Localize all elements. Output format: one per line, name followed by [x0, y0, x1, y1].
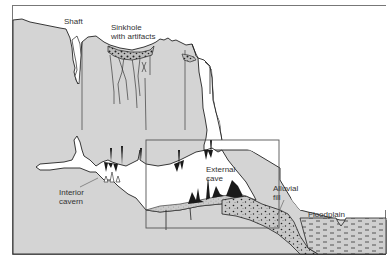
- label-sinkhole: Sinkhole with artifacts: [111, 23, 155, 41]
- karst-cross-section: [0, 0, 390, 268]
- label-interior-cavern: Interior cavern: [59, 188, 84, 206]
- label-shaft: Shaft: [64, 17, 83, 26]
- label-alluvial-fill: Alluvial fill: [273, 184, 298, 202]
- label-floodplain: Floodplain: [308, 210, 345, 219]
- floodplain-silt: [300, 218, 386, 254]
- label-external-cave: External cave: [206, 165, 235, 183]
